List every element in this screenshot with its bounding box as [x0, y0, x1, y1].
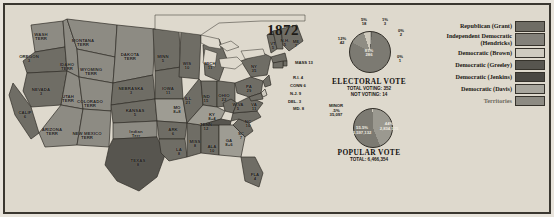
state-label-washterr: WASH TERR	[25, 33, 57, 42]
electoral-slice-label-4: 0%2	[394, 29, 408, 38]
state-label-fla: FLA 4	[239, 173, 271, 182]
vote-charts: 12%42 5%18 1%3 0%2 0%1 81%286 ELECTORAL …	[321, 19, 417, 209]
legend-label-6: Territories	[417, 98, 515, 105]
popular-slice-label-1: 44%2,834,125	[376, 122, 402, 131]
state-label-ny: NY 35	[238, 65, 270, 74]
legend-label-1: Independent Democratic (Hendricks)	[417, 33, 515, 46]
state-label-tenn: TENN 12	[190, 123, 222, 132]
legend-swatch-5	[515, 84, 545, 95]
callout-conn: CONN 6	[290, 83, 306, 88]
legend-row-1[interactable]: Independent Democratic (Hendricks)	[417, 33, 545, 46]
legend-swatch-2	[515, 48, 545, 59]
state-label-mich: MICH 11	[194, 62, 226, 71]
state-label-montanaterr: MONTANA TERR	[67, 39, 99, 48]
legend-swatch-4	[515, 72, 545, 83]
state-label-pa: PA 29	[233, 85, 265, 94]
state-label-me: ME 7	[280, 40, 312, 49]
legend-row-0[interactable]: Republican (Grant)	[417, 21, 545, 32]
state-label-dakotaterr: DAKOTA TERR	[114, 53, 146, 62]
callout-md: MD. 8	[293, 106, 304, 111]
electoral-slice-label-1: 12%42	[331, 37, 353, 46]
state-label-oregon: OREGON 3	[13, 55, 45, 64]
legend-swatch-0	[515, 21, 545, 32]
callout-nj: N.J. 9	[290, 91, 301, 96]
state-label-texas: TEXAS 8	[122, 159, 154, 168]
legend-swatch-6	[515, 96, 545, 107]
electoral-pie-chart: 12%42 5%18 1%3 0%2 0%1 81%286	[321, 19, 417, 77]
state-label-nebraska: NEBRASKA 3	[115, 87, 147, 96]
legend-row-6[interactable]: Territories	[417, 96, 545, 107]
popular-total: TOTAL: 6,466,354	[321, 157, 417, 163]
callout-del: DEL. 3	[288, 99, 301, 104]
state-label-nc: NC 10	[232, 120, 264, 129]
callout-ri: R.I. 4	[293, 75, 303, 80]
legend-label-0: Republican (Grant)	[417, 23, 515, 30]
legend-row-4[interactable]: Democratic (Jenkins)	[417, 72, 545, 83]
popular-slice-label-2: MINOR .5%35,097	[323, 104, 349, 117]
party-legend: Republican (Grant)Independent Democratic…	[417, 21, 545, 131]
popular-slice-label-0: 55.5%3,597,132	[349, 126, 375, 135]
state-label-coloradoterr: COLORADO TERR	[74, 100, 106, 109]
map-title: 1872	[248, 22, 318, 39]
state-label-kansas: KANSAS 5	[119, 109, 151, 118]
electoral-chart-title: ELECTORAL VOTE	[321, 77, 417, 86]
state-label-iowa: IOWA 11	[152, 87, 184, 96]
figure-canvas: .st{stroke:#2f2c26;stroke-width:.7;} .re…	[5, 5, 549, 212]
legend-swatch-1	[515, 33, 545, 46]
legend-swatch-3	[515, 60, 545, 71]
state-label-arizonaterr: ARIZONA TERR	[36, 128, 68, 137]
electoral-map-figure: .st{stroke:#2f2c26;stroke-width:.7;} .re…	[0, 0, 554, 217]
legend-row-3[interactable]: Democratic (Greeley)	[417, 60, 545, 71]
electoral-slice-label-2: 5%18	[355, 18, 373, 27]
legend-label-3: Democratic (Greeley)	[417, 62, 515, 69]
legend-label-4: Democratic (Jenkins)	[417, 74, 515, 81]
state-label-la: LA 8	[163, 148, 195, 157]
legend-row-5[interactable]: Democratic (Davis)	[417, 84, 545, 95]
state-label-calif: CALIF 6	[9, 111, 41, 120]
popular-pie-chart: MINOR .5%35,097 55.5%3,597,132 44%2,834,…	[321, 102, 417, 148]
legend-label-2: Democratic (Brown)	[417, 50, 515, 57]
electoral-slice-label-3: 1%3	[378, 18, 392, 27]
state-label-va: VA 11	[238, 103, 270, 112]
state-label-newmexicoterr: NEW MEXICO TERR	[71, 132, 103, 141]
popular-chart-title: POPULAR VOTE	[321, 148, 417, 157]
electoral-slice-label-5: 0%1	[393, 55, 407, 64]
electoral-not-voting: NOT VOTING: 14	[321, 92, 417, 98]
callout-mass: MASS 13	[295, 60, 313, 65]
state-label-wyomingterr: WYOMING TERR	[75, 68, 107, 77]
electoral-slice-label-0: 81%286	[355, 49, 383, 58]
legend-label-5: Democratic (Davis)	[417, 86, 515, 93]
state-label-mo: MO 8+8	[161, 106, 193, 115]
state-label-sc: SC 7	[225, 132, 257, 141]
state-label-indianterr: Indian Terr	[120, 130, 152, 139]
state-label-ark: ARK 6	[157, 128, 189, 137]
legend-row-2[interactable]: Democratic (Brown)	[417, 48, 545, 59]
state-label-ky: KY 8+4	[196, 113, 228, 122]
figure-frame: .st{stroke:#2f2c26;stroke-width:.7;} .re…	[3, 3, 551, 214]
